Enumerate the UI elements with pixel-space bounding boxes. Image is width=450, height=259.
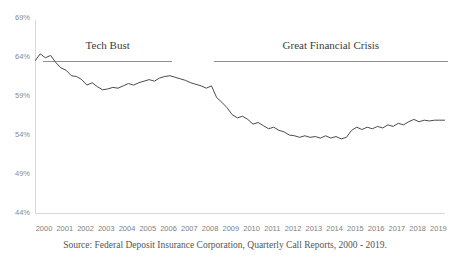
x-axis-tick-label: 2013 <box>306 224 323 233</box>
x-axis-tick-label: 2000 <box>36 224 53 233</box>
y-axis-tick-label: 44% <box>4 209 30 217</box>
y-axis-tick-label: 49% <box>4 170 30 178</box>
plot-area <box>35 18 445 213</box>
y-axis-tick-label: 64% <box>4 53 30 61</box>
x-axis-tick-label: 2004 <box>119 224 136 233</box>
x-axis-tick-label: 2005 <box>139 224 156 233</box>
x-axis-tick-label: 2006 <box>160 224 177 233</box>
x-axis-tick-label: 2019 <box>430 224 447 233</box>
x-axis-tick-label: 2002 <box>77 224 94 233</box>
x-axis-tick-label: 2009 <box>222 224 239 233</box>
source-note: Source: Federal Deposit Insurance Corpor… <box>0 240 450 250</box>
x-axis-tick-label: 2015 <box>347 224 364 233</box>
x-axis-tick-label: 2018 <box>409 224 426 233</box>
chart-container: 69%64%59%54%49%44% Tech BustGreat Financ… <box>0 0 450 259</box>
x-axis-tick-label: 2012 <box>285 224 302 233</box>
y-axis-tick-labels: 69%64%59%54%49%44% <box>0 0 30 259</box>
x-axis-tick-label: 2008 <box>202 224 219 233</box>
x-axis-tick-label: 2003 <box>98 224 115 233</box>
x-axis-tick-labels: 2000200120022003200420052006200720082009… <box>35 224 445 236</box>
x-axis-tick-label: 2011 <box>264 224 280 233</box>
y-axis-tick-label: 59% <box>4 92 30 100</box>
y-axis-tick-label: 69% <box>4 14 30 22</box>
data-line-series-0 <box>35 54 445 139</box>
x-axis-tick-label: 2016 <box>368 224 385 233</box>
x-axis-tick-label: 2007 <box>181 224 198 233</box>
x-axis-tick-label: 2014 <box>326 224 343 233</box>
x-axis-tick-label: 2010 <box>243 224 260 233</box>
x-axis-tick-label: 2017 <box>389 224 406 233</box>
x-axis-tick-label: 2001 <box>56 224 73 233</box>
y-axis-tick-label: 54% <box>4 131 30 139</box>
